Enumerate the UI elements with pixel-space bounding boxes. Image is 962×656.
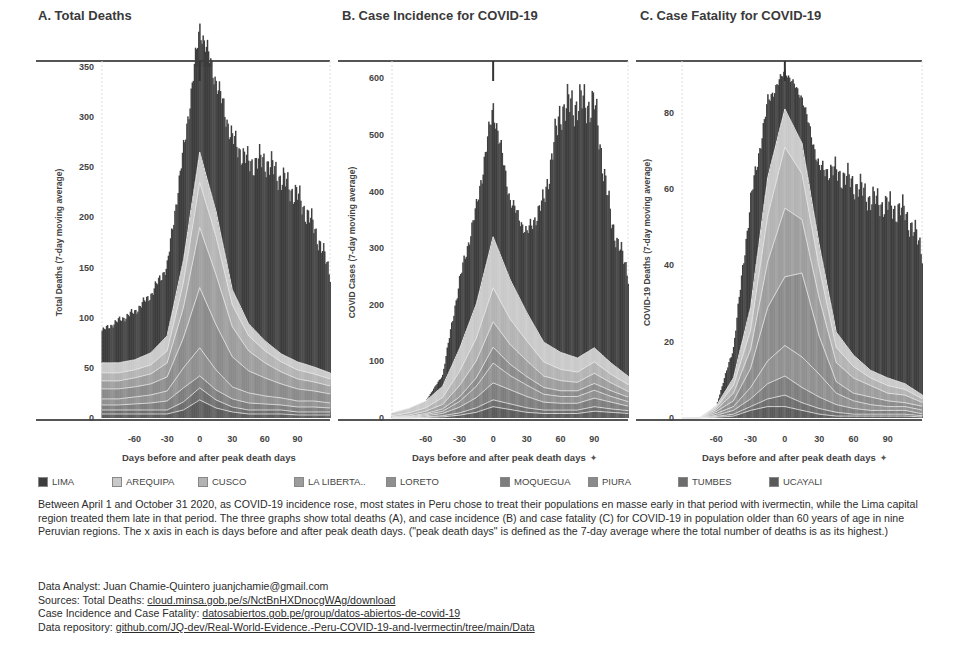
x-tick-label: -60: [419, 434, 432, 444]
y-tick-label: 400: [369, 187, 384, 197]
chart-c: 020406080-60-300306090COVID-19 Deaths (7…: [636, 61, 923, 444]
legend-item-lima[interactable]: LIMA: [38, 476, 74, 487]
legend-item-piura[interactable]: PIURA: [588, 476, 631, 487]
x-tick-label: 60: [260, 434, 270, 444]
x-tick-label: 0: [782, 434, 787, 444]
x-tick-label: -60: [710, 434, 723, 444]
y-tick-label: 0: [379, 413, 384, 423]
sources-link[interactable]: cloud.minsa.gob.pe/s/NctBnHXDnocgWAg/dow…: [147, 594, 395, 606]
y-axis-label: Total Deaths (7-day moving average): [54, 168, 64, 316]
x-tick-label: 90: [589, 434, 599, 444]
legend-item-moquegua[interactable]: MOQUEGUA: [500, 476, 570, 487]
y-tick-label: 150: [79, 263, 94, 273]
credits: Data Analyst: Juan Chamie-Quintero juanj…: [38, 580, 938, 634]
chart-b: 0100200300400500600-60-300306090COVID Ca…: [338, 61, 629, 444]
incidence-link[interactable]: datosabiertos.gob.pe/group/datos-abierto…: [202, 607, 460, 619]
y-tick-label: 100: [369, 356, 384, 366]
legend-swatch: [678, 477, 688, 487]
x-tick-label: 60: [556, 434, 566, 444]
x-tick-label: 30: [522, 434, 532, 444]
x-tick-label: -30: [453, 434, 466, 444]
legend-item-la-libertad[interactable]: LA LIBERTA..: [294, 476, 366, 487]
charts-svg: 050100150200250300350-60-300306090Total …: [0, 0, 962, 470]
pin-icon[interactable]: ✦: [880, 453, 888, 463]
y-tick-label: 300: [369, 243, 384, 253]
repo-link[interactable]: github.com/JQ-dev/Real-World-Evidence.-P…: [116, 621, 535, 633]
x-tick-label: -30: [161, 434, 174, 444]
legend-swatch: [294, 477, 304, 487]
legend-swatch: [588, 477, 598, 487]
y-tick-label: 50: [84, 363, 94, 373]
figure-caption: Between April 1 and October 31 2020, as …: [38, 498, 938, 539]
chart-c-xlabel: Days before and after peak death days✦: [702, 452, 887, 463]
chart-a-xlabel: Days before and after peak death days: [122, 452, 296, 463]
y-tick-label: 0: [669, 413, 674, 423]
y-tick-label: 250: [79, 162, 94, 172]
legend-swatch: [198, 477, 208, 487]
y-tick-label: 40: [664, 260, 674, 270]
y-tick-label: 60: [664, 184, 674, 194]
y-tick-label: 300: [79, 112, 94, 122]
legend-swatch: [500, 477, 510, 487]
legend: LIMA AREQUIPA CUSCO LA LIBERTA.. LORETO …: [38, 476, 938, 492]
y-tick-label: 500: [369, 130, 384, 140]
y-axis-label: COVID Cases (7-day moving average): [347, 167, 357, 319]
x-tick-label: 30: [814, 434, 824, 444]
x-tick-label: -60: [128, 434, 141, 444]
x-tick-label: -30: [744, 434, 757, 444]
legend-item-loreto[interactable]: LORETO: [386, 476, 439, 487]
repo-line: Data repository: github.com/JQ-dev/Real-…: [38, 621, 938, 635]
pin-icon[interactable]: ✦: [590, 453, 598, 463]
legend-swatch: [769, 477, 779, 487]
legend-item-cusco[interactable]: CUSCO: [198, 476, 246, 487]
y-tick-label: 600: [369, 73, 384, 83]
legend-item-tumbes[interactable]: TUMBES: [678, 476, 732, 487]
incidence-line: Case Incidence and Case Fatality: datosa…: [38, 607, 938, 621]
x-tick-label: 0: [197, 434, 202, 444]
y-tick-label: 100: [79, 313, 94, 323]
chart-a: 050100150200250300350-60-300306090Total …: [36, 24, 331, 444]
legend-swatch: [112, 477, 122, 487]
chart-b-xlabel: Days before and after peak death days✦: [412, 452, 597, 463]
x-tick-label: 90: [883, 434, 893, 444]
y-tick-label: 350: [79, 62, 94, 72]
legend-item-arequipa[interactable]: AREQUIPA: [112, 476, 174, 487]
legend-swatch: [386, 477, 396, 487]
y-tick-label: 200: [79, 212, 94, 222]
analyst-line: Data Analyst: Juan Chamie-Quintero juanj…: [38, 580, 938, 594]
x-tick-label: 30: [227, 434, 237, 444]
legend-item-ucayali[interactable]: UCAYALI: [769, 476, 822, 487]
x-tick-label: 0: [491, 434, 496, 444]
legend-swatch: [38, 477, 48, 487]
y-tick-label: 80: [664, 108, 674, 118]
y-axis-label: COVID-19 Deaths (7-day moving average): [642, 159, 652, 326]
x-tick-label: 90: [292, 434, 302, 444]
y-tick-label: 0: [89, 413, 94, 423]
y-tick-label: 200: [369, 300, 384, 310]
sources-line: Sources: Total Deaths: cloud.minsa.gob.p…: [38, 594, 938, 608]
x-tick-label: 60: [848, 434, 858, 444]
y-tick-label: 20: [664, 337, 674, 347]
